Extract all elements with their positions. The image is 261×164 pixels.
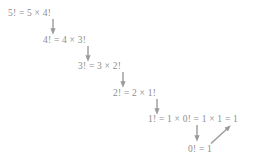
equation-step-5: 5! = 5 × 4!	[8, 8, 51, 19]
equation-step-2: 2! = 2 × 1!	[113, 88, 156, 99]
equation-step-0: 0! = 1	[188, 144, 212, 155]
equation-step-4: 4! = 4 × 3!	[43, 35, 86, 46]
equation-step-1: 1! = 1 × 0! = 1 × 1 = 1	[148, 114, 238, 125]
arrow-substitute-up	[211, 128, 229, 144]
factorial-cascade-diagram: 5! = 5 × 4! 4! = 4 × 3! 3! = 3 × 2! 2! =…	[0, 0, 261, 164]
equation-step-3: 3! = 3 × 2!	[78, 61, 121, 72]
arrow-layer	[0, 0, 261, 164]
